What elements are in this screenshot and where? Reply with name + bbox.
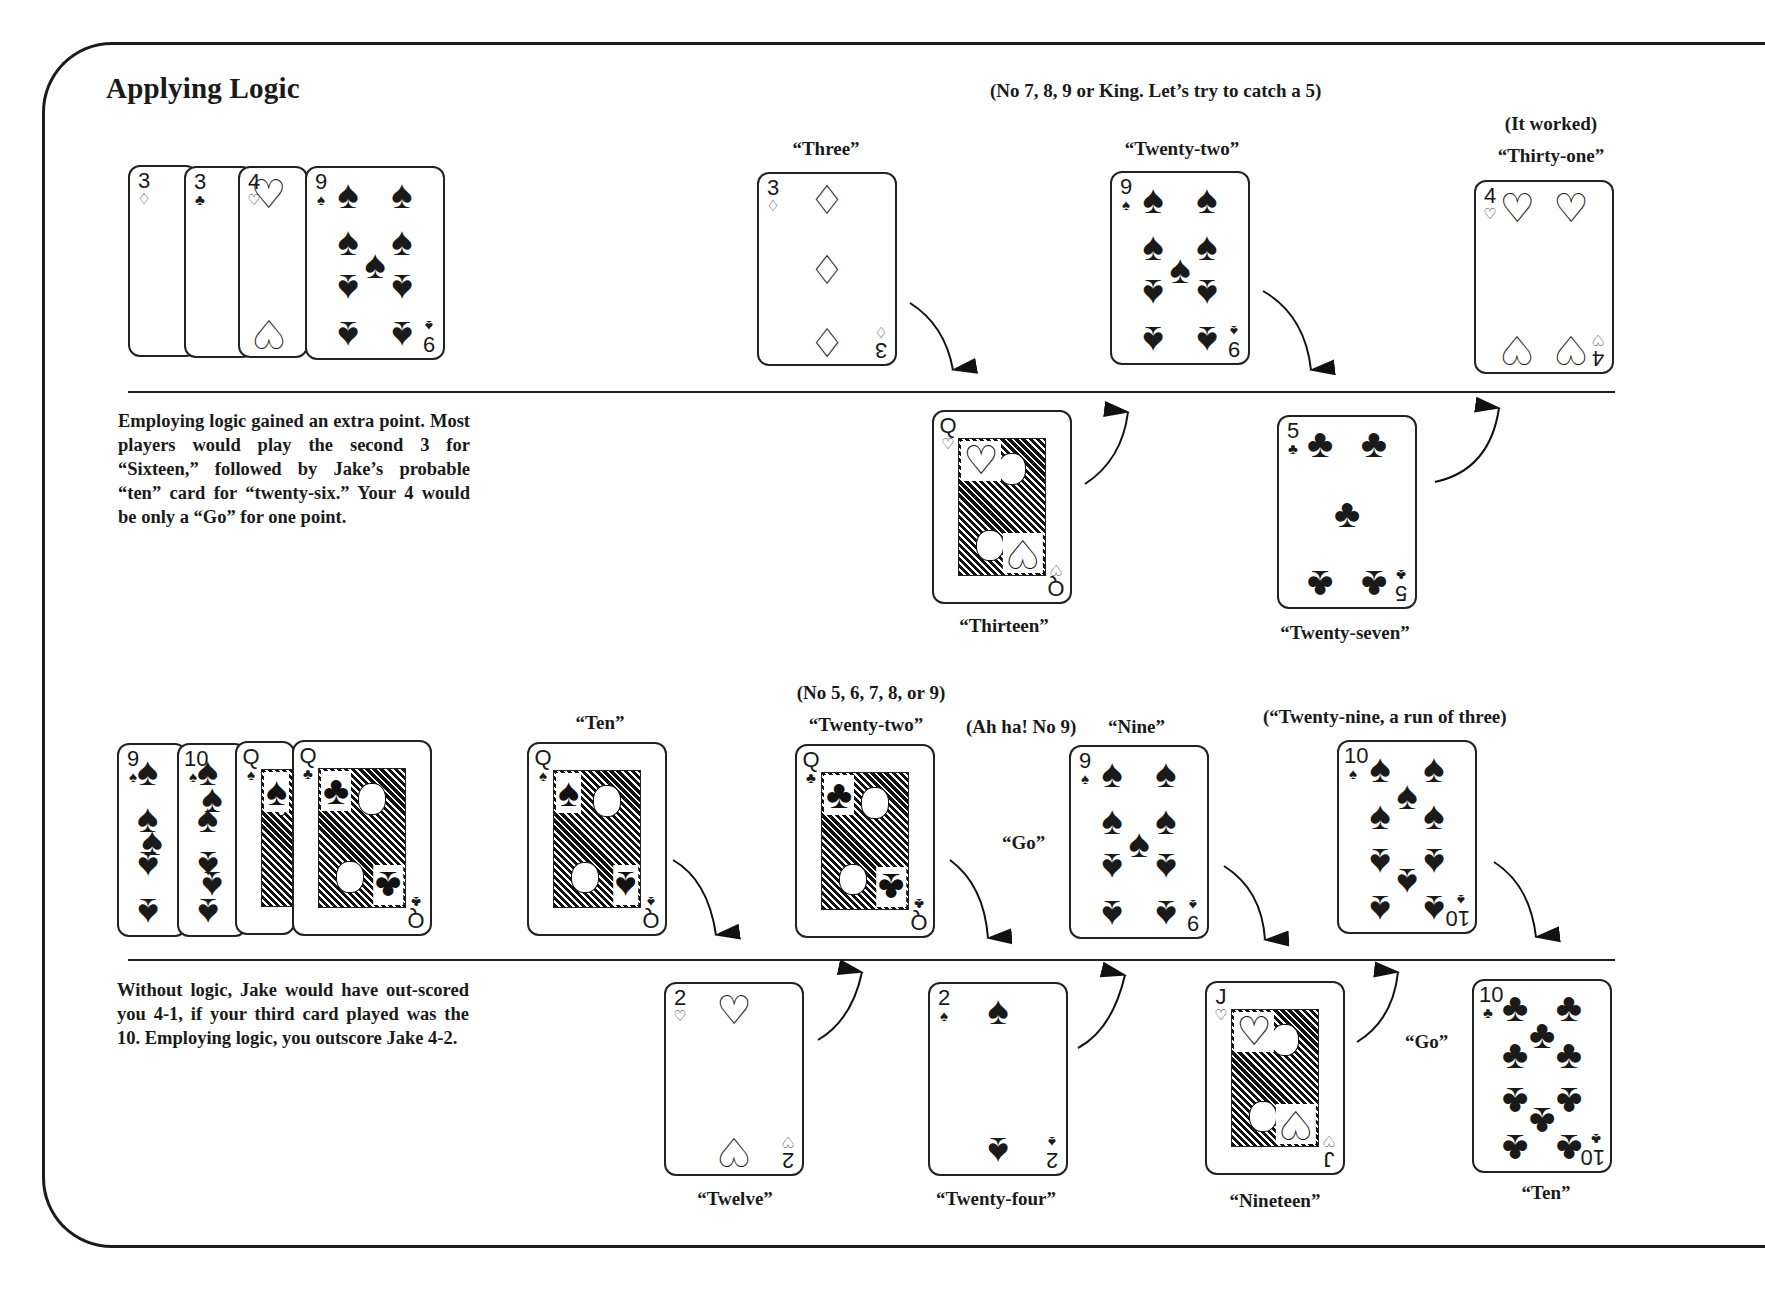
- playing-card-q-of-spades: Q♠♠: [235, 741, 295, 935]
- arrow-up-icon: [1085, 412, 1128, 484]
- spade-icon: ♠: [128, 892, 168, 932]
- face-portrait: [358, 783, 386, 815]
- arrow-down-icon: [910, 303, 953, 370]
- face-portrait-inverted: [336, 861, 364, 893]
- spade-icon: ♠: [188, 892, 228, 932]
- arrow-down-icon: [673, 860, 716, 935]
- card-rank: Q: [407, 908, 424, 933]
- spade-icon: ♠: [188, 799, 228, 839]
- spade-icon: ♠: [242, 767, 260, 783]
- spade-icon: ♠: [382, 268, 422, 308]
- spade-icon: ♠: [128, 845, 168, 885]
- club-icon: ♣: [321, 771, 351, 811]
- club-icon: ♣: [191, 192, 209, 208]
- card-rank: 9: [423, 332, 435, 357]
- spade-icon: ♠: [328, 315, 368, 355]
- club-icon: ♣: [373, 865, 403, 905]
- heart-icon: ♡: [249, 175, 289, 215]
- heart-icon: ♡: [249, 313, 289, 353]
- spade-icon: ♠: [382, 175, 422, 215]
- card-index-top: Q♠: [242, 747, 260, 783]
- spade-icon: ♠: [382, 315, 422, 355]
- court-card-artwork: ♠: [261, 769, 293, 907]
- arrow-up-icon: [818, 972, 862, 1040]
- arrow-up-icon: [1357, 972, 1398, 1042]
- spade-icon: ♠: [328, 175, 368, 215]
- arrow-down-icon: [1494, 862, 1536, 937]
- court-card-artwork: ♣♣: [318, 768, 406, 908]
- arrow-up-icon: [1435, 408, 1499, 482]
- spade-icon: ♠: [264, 772, 289, 812]
- playing-card-4-of-hearts: 4♡♡♡: [238, 166, 308, 358]
- arrow-down-icon: [1224, 866, 1265, 940]
- playing-card-9-of-spades: 9♠9♠♠♠♠♠♠♠♠♠♠: [305, 166, 445, 360]
- card-index-top: Q♣: [299, 746, 317, 782]
- arrow-down-icon: [1263, 291, 1311, 370]
- spade-icon: ♠: [128, 752, 168, 792]
- club-icon: ♣: [299, 766, 317, 782]
- playing-card-q-of-clubs: Q♣Q♣♣♣: [292, 740, 432, 936]
- arrow-down-icon: [950, 860, 988, 938]
- diamond-icon: ♢: [135, 191, 153, 207]
- card-index-top: 3♢: [135, 171, 153, 207]
- arrow-up-icon: [1078, 975, 1125, 1048]
- card-index-top: 3♣: [191, 172, 209, 208]
- spade-icon: ♠: [328, 268, 368, 308]
- card-index-bottom: Q♣: [407, 894, 425, 930]
- card-index-bottom: 9♠: [420, 318, 438, 354]
